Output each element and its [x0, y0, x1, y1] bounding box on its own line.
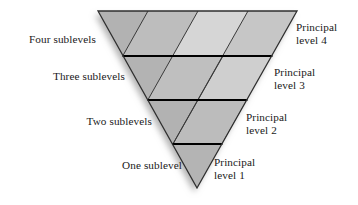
label-principal-level-2-line2: level 2: [246, 124, 287, 137]
label-principal-level-3-line2: level 3: [274, 79, 315, 92]
label-three-sublevels: Three sublevels: [53, 70, 125, 83]
energy-level-diagram: Four sublevels Three sublevels Two suble…: [0, 0, 358, 205]
label-four-sublevels: Four sublevels: [29, 33, 96, 46]
label-principal-level-1-line1: Principal: [214, 156, 255, 169]
label-principal-level-3-line1: Principal: [274, 66, 315, 79]
label-three-sublevels-text: Three sublevels: [53, 70, 125, 83]
label-two-sublevels: Two sublevels: [87, 115, 152, 128]
label-principal-level-3: Principal level 3: [274, 66, 315, 92]
label-one-sublevel-text: One sublevel: [122, 159, 182, 172]
label-principal-level-1-line2: level 1: [214, 169, 255, 182]
label-principal-level-2-line1: Principal: [246, 111, 287, 124]
label-principal-level-4: Principal level 4: [296, 21, 337, 47]
label-principal-level-4-line2: level 4: [296, 34, 337, 47]
label-four-sublevels-text: Four sublevels: [29, 33, 96, 46]
label-two-sublevels-text: Two sublevels: [87, 115, 152, 128]
label-principal-level-1: Principal level 1: [214, 156, 255, 182]
label-principal-level-4-line1: Principal: [296, 21, 337, 34]
label-one-sublevel: One sublevel: [122, 159, 182, 172]
label-principal-level-2: Principal level 2: [246, 111, 287, 137]
